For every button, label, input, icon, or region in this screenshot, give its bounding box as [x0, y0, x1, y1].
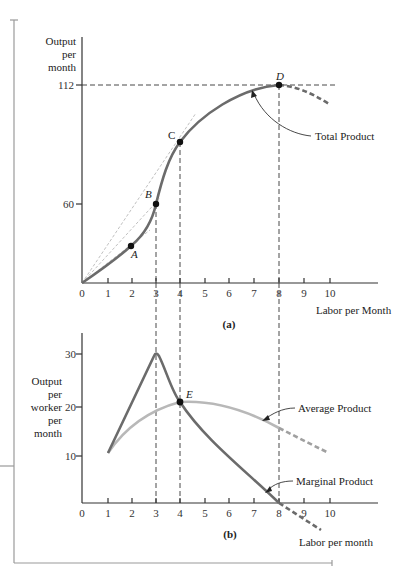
xtick: 2 [129, 287, 135, 299]
average-product-label: Average Product [298, 402, 371, 414]
xtick: 2 [129, 507, 135, 519]
panel-b-ylabel-line5: month [34, 427, 63, 439]
panel-b-ylabel-line1: Output [31, 375, 62, 387]
xtick: 5 [202, 287, 208, 299]
point-d-marker [276, 82, 282, 88]
point-b-label: B [145, 188, 152, 200]
average-product-curve [108, 402, 279, 453]
xtick: 10 [325, 287, 337, 299]
panel-a-ylabel-line1: Output [45, 35, 76, 47]
panel-a-xticks: 0 1 2 3 4 5 6 7 8 9 10 [79, 287, 336, 299]
panel-b: Output per worker per month 30 20 10 0 1… [31, 283, 378, 548]
total-product-label: Total Product [315, 130, 374, 142]
xtick: 0 [79, 507, 85, 519]
panel-b-ytick-20: 20 [65, 401, 77, 413]
xtick: 1 [105, 287, 111, 299]
panel-b-xticks: 0 1 2 3 4 5 6 7 8 9 10 [79, 507, 336, 519]
arrowhead-icon [262, 415, 270, 421]
average-product-arrow [265, 408, 295, 419]
xtick: 3 [153, 507, 159, 519]
xtick: 6 [226, 287, 232, 299]
panel-a: Output per month 112 60 0 1 2 3 4 5 6 7 … [45, 35, 391, 331]
panel-a-ylabel-line2: per [62, 48, 76, 60]
point-c-marker [177, 139, 183, 145]
xtick: 5 [202, 507, 208, 519]
panel-a-label: (a) [223, 318, 236, 331]
panel-b-ytick-30: 30 [65, 348, 77, 360]
panel-a-ylabel-line3: month [48, 61, 77, 73]
panel-a-xlabel: Labor per Month [316, 304, 392, 316]
xtick: 10 [325, 507, 337, 519]
xtick: 9 [301, 287, 307, 299]
xtick: 8 [276, 507, 282, 519]
total-product-curve-dashed [279, 85, 329, 104]
total-product-arrow [254, 94, 311, 136]
point-e-label: E [185, 388, 193, 400]
point-c-label: C [168, 129, 175, 141]
xtick: 7 [251, 507, 257, 519]
panel-b-ylabel-line3: worker [31, 401, 62, 413]
xtick: 4 [177, 507, 183, 519]
average-product-curve-dashed [279, 428, 329, 453]
panel-b-label: (b) [223, 528, 237, 541]
panel-b-ylabel-line4: per [48, 414, 62, 426]
production-charts: Output per month 112 60 0 1 2 3 4 5 6 7 … [0, 0, 402, 575]
panel-a-ytick-60: 60 [63, 198, 75, 210]
point-e-marker [177, 399, 184, 406]
panel-a-ytick-112: 112 [58, 79, 74, 91]
xtick: 1 [105, 507, 111, 519]
point-d-label: D [275, 70, 284, 82]
total-product-curve [82, 85, 279, 283]
xtick: 6 [226, 507, 232, 519]
panel-b-xlabel: Labor per month [299, 536, 373, 548]
panel-a-axes [76, 37, 378, 283]
xtick: 0 [79, 287, 85, 299]
panel-b-ytick-10: 10 [65, 450, 77, 462]
marginal-product-arrow [268, 481, 293, 490]
xtick: 7 [251, 287, 257, 299]
marginal-product-curve-dashed [279, 503, 321, 530]
marginal-product-curve [108, 354, 279, 504]
panel-a-rays [82, 113, 196, 283]
point-b-marker [153, 201, 159, 207]
panel-b-ylabel-line2: per [48, 388, 62, 400]
page-frame [0, 20, 332, 566]
point-a-label: A [130, 248, 138, 260]
marginal-product-label: Marginal Product [296, 475, 373, 487]
